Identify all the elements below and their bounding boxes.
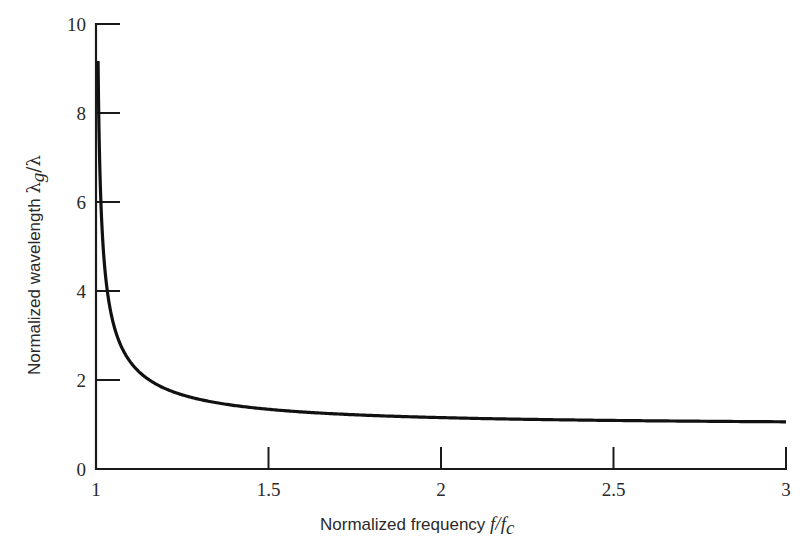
y-axis-title-lambda2: λ <box>23 155 44 166</box>
x-tick-label: 3 <box>781 479 791 500</box>
x-tick-label: 2.5 <box>602 479 626 500</box>
y-tick-label: 2 <box>77 370 87 391</box>
y-tick-label: 4 <box>77 281 87 302</box>
y-tick-label: 0 <box>77 459 87 480</box>
chart-canvas: 0246810 11.522.53 Normalized frequency f… <box>0 0 810 555</box>
x-ticks: 11.522.53 <box>91 447 791 500</box>
y-tick-label: 10 <box>67 14 86 35</box>
x-axis-title-sub: c <box>506 517 515 538</box>
x-axis: 11.522.53 <box>91 447 791 500</box>
y-axis: 0246810 <box>67 14 120 480</box>
y-tick-label: 6 <box>77 192 87 213</box>
data-curve <box>98 61 786 422</box>
x-tick-label: 2 <box>436 479 446 500</box>
y-tick-label: 8 <box>77 103 87 124</box>
y-ticks: 0246810 <box>67 14 120 480</box>
y-axis-title-lambda: λ <box>23 182 44 193</box>
x-axis-title: Normalized frequency f/fc <box>320 513 515 538</box>
x-tick-label: 1 <box>91 479 101 500</box>
x-tick-label: 1.5 <box>257 479 281 500</box>
y-axis-title: Normalized wavelength λg/λ <box>23 155 48 375</box>
y-axis-title-sub: g <box>27 173 48 183</box>
y-axis-title-text: Normalized wavelength <box>25 194 44 375</box>
x-axis-title-text: Normalized frequency <box>320 515 490 534</box>
